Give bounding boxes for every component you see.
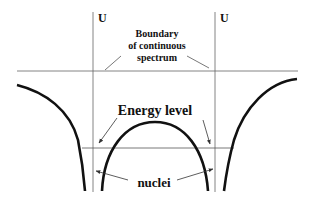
boundary-label-line2: of continuous xyxy=(128,40,186,51)
boundary-label-line1: Boundary xyxy=(136,28,179,39)
potential-well-diagram: U U Boundary of continuous spectrum Ener… xyxy=(0,0,312,199)
left-potential-curve xyxy=(17,85,85,191)
boundary-pointer-left xyxy=(105,56,121,70)
right-potential-curve xyxy=(224,79,297,191)
nuclei-label: nuclei xyxy=(137,175,171,190)
boundary-label-line3: spectrum xyxy=(137,52,178,63)
left-axis-label: U xyxy=(98,11,107,25)
right-axis-label: U xyxy=(220,11,229,25)
energy-arrow-right xyxy=(203,120,210,144)
energy-level-label: Energy level xyxy=(118,103,192,118)
nuclei-arrow-left xyxy=(96,171,128,180)
energy-arrow-left xyxy=(99,118,117,143)
boundary-pointer-right xyxy=(187,56,209,68)
